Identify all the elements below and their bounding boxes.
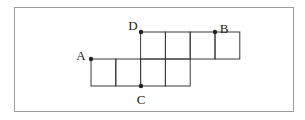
point-d-dot: [139, 30, 143, 34]
point-a-dot: [89, 57, 93, 61]
point-b-label: B: [220, 21, 229, 36]
labeled-points: ABCD: [76, 18, 228, 107]
point-a-label: A: [76, 48, 86, 63]
point-b-dot: [213, 30, 217, 34]
grid-cell: [165, 59, 190, 86]
grid-cell: [116, 59, 141, 86]
grid-cell: [190, 32, 215, 59]
point-d-label: D: [128, 18, 137, 33]
grid-cell: [91, 59, 116, 86]
grid-cell: [141, 32, 166, 59]
grid-diagram: ABCD: [0, 0, 305, 120]
grid-cells: [91, 32, 240, 86]
grid-cell: [215, 32, 240, 59]
diagram-canvas: ABCD: [0, 0, 305, 120]
point-c-dot: [139, 84, 143, 88]
point-c-label: C: [137, 92, 146, 107]
grid-cell: [165, 32, 190, 59]
grid-cell: [141, 59, 166, 86]
